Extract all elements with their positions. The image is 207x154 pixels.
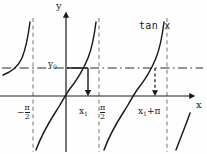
y-axis-label: y (56, 1, 62, 11)
curve-label-tan-x: tan x (139, 21, 171, 31)
x-axis-label: x (196, 100, 202, 110)
tick-label-neg-half-pi: −π2 (17, 104, 30, 120)
tan-branch-left (3, 22, 30, 75)
tan-curve-group (3, 22, 190, 150)
tick-label-x1-plus-pi: x1+π (138, 107, 160, 117)
tangent-function-plot: y x tan x y0 −π2 π2 x1 x1+π (0, 0, 207, 154)
tick-label-x1: x1 (79, 107, 88, 117)
tan-branch-far-right (176, 113, 190, 150)
y0-label: y0 (48, 60, 57, 70)
asymptote-group (33, 18, 167, 152)
plot-canvas (0, 0, 207, 154)
tick-label-half-pi: π2 (100, 104, 105, 120)
